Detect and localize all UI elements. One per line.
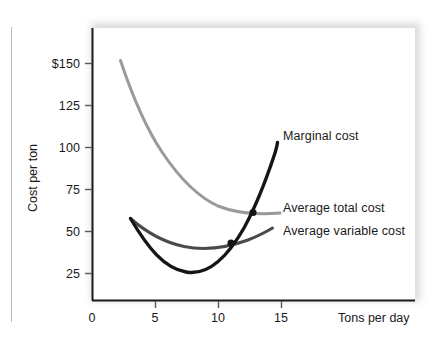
series-marginal-cost — [131, 143, 278, 273]
series-average-variable-cost — [131, 219, 273, 249]
mc-atc-intersection-dot — [249, 209, 256, 216]
series-average-total-cost — [121, 61, 281, 214]
chart-figure: Cost per ton $150 125 100 75 50 25 0 5 1… — [0, 0, 443, 348]
x-tick-marks — [156, 301, 282, 308]
chart-canvas — [0, 0, 443, 348]
y-tick-marks — [85, 64, 92, 274]
mc-avc-intersection-dot — [227, 239, 234, 246]
